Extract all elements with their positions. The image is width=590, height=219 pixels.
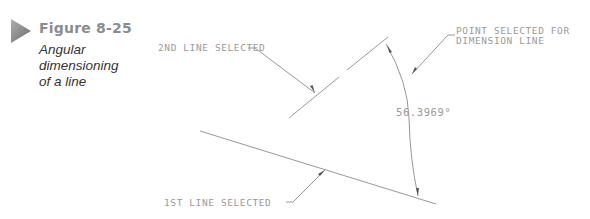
arrow-icon (310, 85, 315, 93)
extension-line (347, 37, 388, 70)
label-first-line: 1ST LINE SELECTED (164, 197, 271, 208)
dimension-arc (386, 44, 418, 196)
second-line (289, 77, 339, 118)
arrow-icon (387, 45, 392, 53)
arrow-icon (318, 170, 325, 176)
arrow-icon (412, 67, 417, 74)
angular-dimension-drawing: 2ND LINE SELECTED 1ST LINE SELECTED POIN… (0, 0, 590, 219)
first-line (200, 131, 436, 204)
angle-value: 56.3969° (396, 106, 451, 118)
label-point-selected-2: DIMENSION LINE (456, 35, 544, 46)
label-second-line: 2ND LINE SELECTED (158, 42, 265, 53)
leader-second-line (248, 48, 315, 93)
leader-point-selected (412, 35, 455, 74)
